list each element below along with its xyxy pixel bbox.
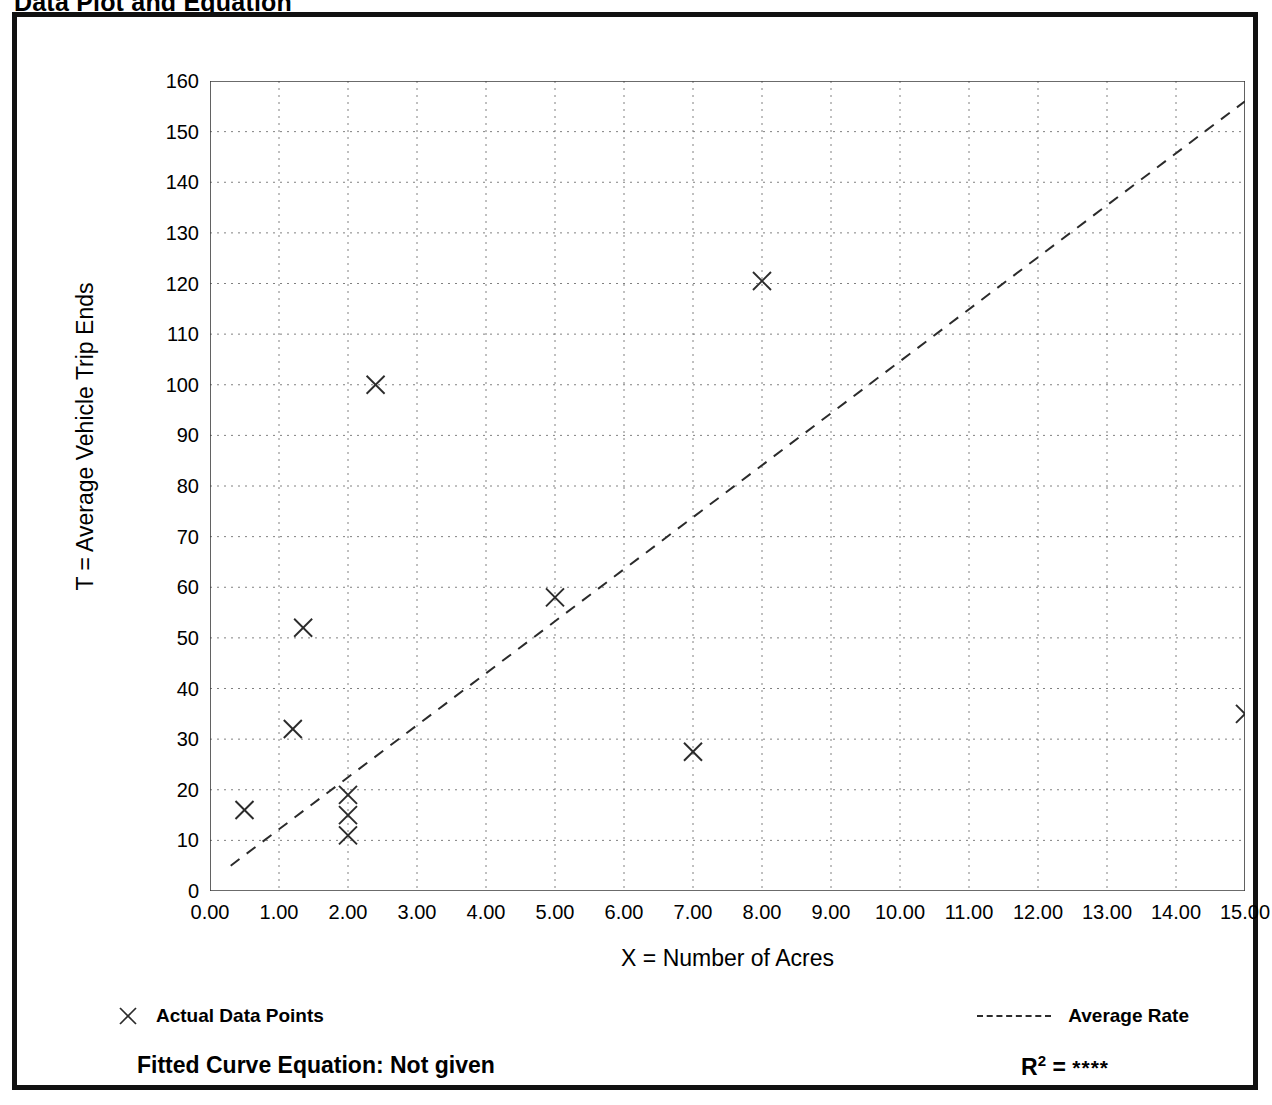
legend-label-actual-data-points: Actual Data Points — [156, 1005, 324, 1027]
legend-item-actual-data-points: Actual Data Points — [117, 1005, 324, 1027]
r-exponent: 2 — [1038, 1052, 1046, 1069]
equation-row: Fitted Curve Equation: Not given R2 = **… — [57, 1052, 1217, 1092]
y-axis-tick-label: 60 — [177, 576, 199, 599]
data-point-markers — [236, 272, 1246, 844]
x-axis-tick-label: 7.00 — [674, 901, 713, 924]
r-squared-value: R2 = **** — [1021, 1052, 1109, 1081]
y-axis-tick-label: 130 — [166, 221, 199, 244]
y-axis-tick-label: 0 — [188, 880, 199, 903]
y-axis-tick-label: 20 — [177, 778, 199, 801]
x-axis-tick-label: 3.00 — [398, 901, 437, 924]
y-axis-tick-label: 120 — [166, 272, 199, 295]
plot-region — [210, 81, 1245, 891]
figure-frame: T = Average Vehicle Trip Ends 0102030405… — [12, 12, 1258, 1090]
y-axis-tick-label: 10 — [177, 829, 199, 852]
y-axis-tick-label: 140 — [166, 171, 199, 194]
plot-area — [210, 81, 1245, 891]
x-marker-icon — [117, 1005, 139, 1027]
x-axis-tick-label: 11.00 — [945, 901, 994, 924]
r-value: **** — [1072, 1056, 1109, 1079]
x-axis-tick-label: 9.00 — [812, 901, 851, 924]
y-axis-tick-label: 90 — [177, 424, 199, 447]
x-axis-tick-label: 2.00 — [329, 901, 368, 924]
x-axis-tick-label: 4.00 — [467, 901, 506, 924]
y-axis-tick-label: 80 — [177, 475, 199, 498]
y-axis-tick-label: 40 — [177, 677, 199, 700]
x-axis-tick-label: 14.00 — [1151, 901, 1201, 924]
x-axis-tick-label: 6.00 — [605, 901, 644, 924]
dashed-line-icon — [977, 1015, 1051, 1017]
y-axis-tick-label: 50 — [177, 626, 199, 649]
y-axis-title: T = Average Vehicle Trip Ends — [72, 157, 99, 717]
x-axis-tick-label: 15.00 — [1220, 901, 1270, 924]
r-equals: = — [1046, 1054, 1072, 1080]
x-axis-tick-label: 13.00 — [1082, 901, 1132, 924]
average-rate-line — [231, 101, 1245, 865]
r-symbol: R — [1021, 1054, 1038, 1080]
x-axis-tick-label: 8.00 — [743, 901, 782, 924]
x-axis-tick-label: 10.00 — [875, 901, 925, 924]
y-axis-tick-label: 70 — [177, 525, 199, 548]
legend-label-average-rate: Average Rate — [1068, 1005, 1189, 1027]
x-axis-tick-label: 0.00 — [191, 901, 230, 924]
x-axis-title: X = Number of Acres — [210, 945, 1245, 972]
chart-legend: Actual Data Points Average Rate — [57, 1005, 1217, 1037]
y-axis-tick-label: 150 — [166, 120, 199, 143]
y-axis-tick-label: 30 — [177, 728, 199, 751]
fitted-curve-equation: Fitted Curve Equation: Not given — [137, 1052, 495, 1079]
x-axis-tick-label: 12.00 — [1013, 901, 1063, 924]
legend-item-average-rate: Average Rate — [977, 1005, 1189, 1027]
x-axis-tick-label: 5.00 — [536, 901, 575, 924]
y-axis-tick-label: 110 — [167, 323, 199, 346]
y-axis-tick-labels: 0102030405060708090100110120130140150160 — [135, 81, 199, 891]
plot-svg — [210, 81, 1245, 891]
y-axis-tick-label: 160 — [166, 70, 199, 93]
x-axis-tick-labels: 0.001.002.003.004.005.006.007.008.009.00… — [210, 901, 1245, 929]
y-axis-tick-label: 100 — [166, 373, 199, 396]
x-axis-tick-label: 1.00 — [260, 901, 299, 924]
